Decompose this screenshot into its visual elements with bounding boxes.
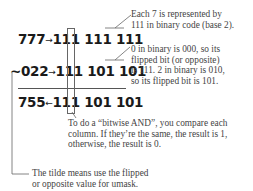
note-line: or opposite value for umask.: [32, 179, 148, 190]
note-tilde: The tilde means use the flipped or oppos…: [32, 168, 148, 189]
note-line: The tilde means use the flipped: [32, 168, 148, 179]
note-bitwise-and: To do a “bitwise AND”, you compare each …: [68, 118, 227, 150]
note-line: 111 in binary code (base 2).: [131, 20, 234, 31]
note-line: column. If they’re the same, the result …: [68, 129, 227, 140]
note-line: flipped bit (or opposite): [131, 55, 225, 66]
note-line: Each 7 is represented by: [131, 9, 234, 20]
note-each-seven: Each 7 is represented by 111 in binary c…: [131, 9, 234, 30]
note-line: so its flipped bit is 101.: [131, 76, 225, 87]
note-line: is 111. 2 in binary is 010,: [131, 65, 225, 76]
note-zero-binary: 0 in binary is 000, so its flipped bit (…: [131, 44, 225, 86]
note-line: otherwise, the result is 0.: [68, 139, 227, 150]
note-line: To do a “bitwise AND”, you compare each: [68, 118, 227, 129]
note-line: 0 in binary is 000, so its: [131, 44, 225, 55]
